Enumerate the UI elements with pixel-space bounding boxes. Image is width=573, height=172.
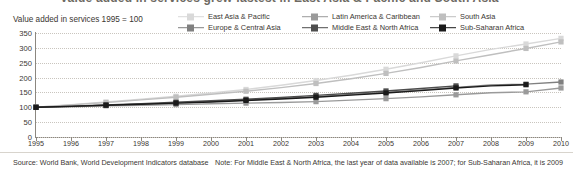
x-axis-tick: 1995 — [28, 139, 44, 148]
gridline — [36, 137, 561, 138]
legend-item[interactable]: Latin America & Caribbean — [302, 13, 420, 20]
data-point-marker — [173, 95, 178, 100]
y-axis-tick: 100 — [2, 103, 32, 112]
data-point-marker — [453, 58, 458, 63]
legend-swatch-icon — [430, 26, 456, 29]
y-axis-tick: 200 — [2, 73, 32, 82]
figure-title-text: Value added in services grew fastest in … — [60, 0, 499, 5]
data-point-marker — [523, 41, 528, 46]
legend-label: Latin America & Caribbean — [332, 13, 420, 20]
chart-legend: East Asia & PacificLatin America & Carib… — [178, 13, 570, 35]
legend-swatch-icon — [430, 15, 456, 18]
data-point-marker — [243, 98, 248, 103]
data-point-marker — [313, 95, 318, 100]
series-lines — [36, 33, 561, 137]
legend-swatch-icon — [178, 15, 204, 18]
data-point-marker — [313, 99, 318, 104]
x-axis-tick: 2005 — [378, 139, 394, 148]
data-point-marker — [523, 82, 528, 87]
note-text: Note: For Middle East & North Africa, th… — [215, 158, 563, 167]
data-point-marker — [243, 89, 248, 94]
y-axis-tick: 300 — [2, 43, 32, 52]
series-south-asia — [33, 39, 563, 110]
source-text: Source: World Bank, World Development In… — [13, 158, 209, 167]
x-axis-tick: 1997 — [98, 139, 114, 148]
legend-label: Sub-Saharan Africa — [460, 24, 524, 31]
x-axis-tick: 2008 — [483, 139, 499, 148]
legend-swatch-icon — [178, 26, 204, 29]
legend-label: South Asia — [460, 13, 495, 20]
data-point-marker — [453, 92, 458, 97]
x-axis-tick: 2003 — [308, 139, 324, 148]
footer-divider — [0, 152, 573, 153]
data-point-marker — [173, 101, 178, 106]
figure-title-cropped: Value added in services grew fastest in … — [0, 0, 573, 11]
x-axis-tick: 2001 — [238, 139, 254, 148]
data-point-marker — [313, 81, 318, 86]
x-axis-tick: 2002 — [273, 139, 289, 148]
y-axis-tick: 350 — [2, 29, 32, 38]
legend-item[interactable]: Europe & Central Asia — [178, 24, 281, 31]
legend-item[interactable]: East Asia & Pacific — [178, 13, 270, 20]
legend-swatch-icon — [302, 26, 328, 29]
data-point-marker — [103, 103, 108, 108]
data-point-marker — [33, 105, 38, 110]
x-axis-tick: 1996 — [63, 139, 79, 148]
legend-label: Middle East & North Africa — [332, 24, 418, 31]
data-point-marker — [453, 53, 458, 58]
data-point-marker — [558, 39, 563, 44]
y-axis-tick: 50 — [2, 118, 32, 127]
x-axis-tick: 2010 — [553, 139, 569, 148]
x-axis-tick: 2007 — [448, 139, 464, 148]
data-point-marker — [383, 90, 388, 95]
legend-item[interactable]: Sub-Saharan Africa — [430, 24, 524, 31]
x-axis-tick: 2004 — [343, 139, 359, 148]
x-axis-tick: 1999 — [168, 139, 184, 148]
x-axis-tick: 1998 — [133, 139, 149, 148]
y-axis-tick-labels: 050100150200250300350 — [0, 33, 32, 137]
y-axis-tick: 150 — [2, 88, 32, 97]
x-axis-tick: 2006 — [413, 139, 429, 148]
data-point-marker — [523, 89, 528, 94]
data-point-marker — [558, 79, 563, 84]
plot-area — [36, 33, 561, 137]
chart-subtitle: Value added in services 1995 = 100 — [13, 15, 143, 24]
data-point-marker — [383, 71, 388, 76]
chart-figure: Value added in services grew fastest in … — [0, 0, 573, 172]
data-point-marker — [523, 46, 528, 51]
data-point-marker — [453, 85, 458, 90]
legend-swatch-icon — [302, 15, 328, 18]
data-point-marker — [383, 96, 388, 101]
x-axis-tick: 2009 — [518, 139, 534, 148]
legend-item[interactable]: Middle East & North Africa — [302, 24, 418, 31]
data-point-marker — [558, 85, 563, 90]
legend-label: Europe & Central Asia — [208, 24, 281, 31]
x-axis-tick: 2000 — [203, 139, 219, 148]
y-axis-tick: 250 — [2, 58, 32, 67]
legend-label: East Asia & Pacific — [208, 13, 270, 20]
legend-item[interactable]: South Asia — [430, 13, 495, 20]
